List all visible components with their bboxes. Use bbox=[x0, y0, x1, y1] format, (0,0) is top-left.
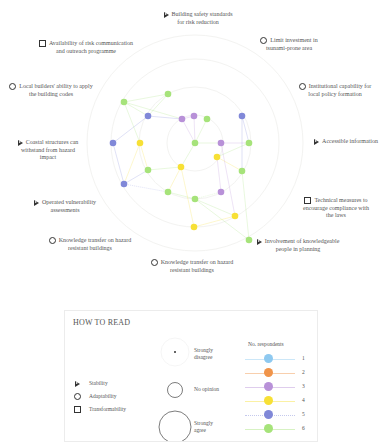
respondent-count: 5 bbox=[302, 411, 305, 417]
axis-label: Involvement of knowledgeablepeople in pl… bbox=[252, 238, 344, 253]
size-label-strongly-disagree: Strongly disagree bbox=[194, 347, 213, 361]
data-dot bbox=[191, 224, 198, 231]
respondent-count: 4 bbox=[302, 397, 305, 403]
respondent-dot bbox=[264, 382, 273, 391]
respondent-count: 3 bbox=[302, 383, 305, 389]
data-dots bbox=[110, 91, 253, 244]
data-dot bbox=[232, 213, 239, 220]
circle-icon bbox=[299, 83, 306, 90]
data-dot bbox=[165, 189, 172, 196]
triangle-icon bbox=[164, 12, 169, 18]
square-icon bbox=[74, 406, 81, 413]
square-icon bbox=[39, 40, 46, 47]
triangle-icon bbox=[314, 139, 319, 145]
axis-label: Local builders' ability to applythe buil… bbox=[8, 83, 94, 98]
data-dot bbox=[145, 167, 152, 174]
respondent-row: 6 bbox=[245, 424, 315, 434]
data-dot bbox=[110, 140, 117, 147]
circle-icon bbox=[260, 37, 267, 44]
respondent-dot bbox=[264, 396, 273, 405]
data-dot bbox=[218, 189, 225, 196]
respondent-dot bbox=[264, 424, 273, 433]
axis-label: Coastal structures canwithstand from haz… bbox=[8, 139, 88, 162]
size-label-strongly-agree: Strongly agree bbox=[194, 420, 213, 434]
respondent-dot bbox=[264, 354, 273, 363]
data-dot bbox=[246, 140, 253, 147]
data-dot bbox=[192, 140, 199, 147]
respondent-dot bbox=[264, 410, 273, 419]
triangle-icon bbox=[18, 140, 23, 146]
axis-label: Building safety standardsfor risk reduct… bbox=[158, 11, 238, 26]
legend-title: HOW TO READ bbox=[73, 318, 130, 327]
respondent-row: 5 bbox=[245, 410, 315, 420]
legend-box: HOW TO READ Stability Adaptability Trans… bbox=[64, 310, 318, 442]
data-dot bbox=[191, 113, 198, 120]
size-label-no-opinion: No opinion bbox=[194, 386, 219, 393]
data-dot bbox=[179, 116, 186, 123]
triangle-icon bbox=[257, 239, 262, 245]
circle-icon bbox=[151, 259, 158, 266]
axis-label: Knowledge transfer on hazardresistant bu… bbox=[45, 237, 135, 252]
circle-icon bbox=[9, 83, 16, 90]
legend-shape-adaptability: Adaptability bbox=[74, 393, 117, 400]
data-dot bbox=[137, 140, 144, 147]
legend-shape-transformability: Transformability bbox=[74, 406, 126, 413]
data-dot bbox=[121, 181, 128, 188]
data-dot bbox=[204, 116, 211, 123]
triangle-icon bbox=[75, 381, 80, 387]
legend-shape-stability: Stability bbox=[75, 380, 108, 387]
axis-label: Institutional capability forlocal policy… bbox=[294, 83, 376, 98]
axis-label: Technical measures toencourage complianc… bbox=[292, 197, 380, 220]
data-dot bbox=[121, 99, 128, 106]
respondent-dot bbox=[264, 368, 273, 377]
data-dot bbox=[239, 168, 246, 175]
axis-label: Knowledge transfer on hazardresistant bu… bbox=[144, 259, 240, 274]
data-dot bbox=[178, 164, 185, 171]
respondent-count: 1 bbox=[302, 355, 305, 361]
axis-label: Limit investment intsunami-prone area bbox=[254, 37, 324, 52]
respondent-row: 2 bbox=[245, 368, 315, 378]
axis-label: Accessible information bbox=[308, 138, 384, 146]
respondent-count: 6 bbox=[302, 425, 305, 431]
data-dot bbox=[192, 196, 199, 203]
data-dot bbox=[218, 140, 225, 147]
axis-label: Operated vulnerabilityassessments bbox=[30, 199, 100, 214]
data-dot bbox=[145, 113, 152, 120]
respondent-row: 1 bbox=[245, 354, 315, 364]
data-dot bbox=[214, 154, 221, 161]
respondent-count: 2 bbox=[302, 369, 305, 375]
axis-label: Availability of risk communicationand ou… bbox=[36, 40, 136, 55]
respondents-title: No. respondents bbox=[248, 341, 284, 347]
respondent-row: 4 bbox=[245, 396, 315, 406]
triangle-icon bbox=[34, 200, 39, 206]
circle-icon bbox=[74, 393, 81, 400]
respondent-row: 3 bbox=[245, 382, 315, 392]
data-dot bbox=[239, 113, 246, 120]
circle-icon bbox=[49, 237, 56, 244]
square-icon bbox=[304, 197, 311, 204]
data-dot bbox=[165, 91, 172, 98]
